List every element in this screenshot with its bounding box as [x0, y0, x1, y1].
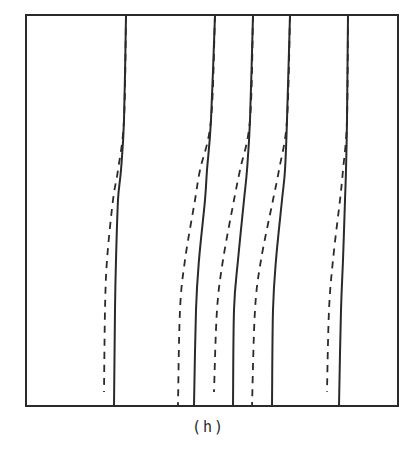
curve-pair-1 [104, 15, 126, 406]
figure-panel-h: (h) [0, 0, 417, 458]
dashed-curve [178, 15, 215, 406]
figure-caption: (h) [0, 418, 417, 436]
solid-curve [233, 15, 253, 406]
solid-curve [194, 15, 215, 406]
curve-group [104, 15, 348, 406]
curve-pair-2 [178, 15, 215, 406]
curve-plot [0, 0, 417, 458]
solid-curve [272, 15, 290, 406]
dashed-curve [252, 15, 290, 406]
curve-pair-4 [252, 15, 290, 406]
curve-pair-5 [327, 15, 348, 406]
curve-pair-3 [214, 15, 253, 406]
solid-curve [339, 15, 348, 406]
solid-curve [114, 15, 126, 406]
